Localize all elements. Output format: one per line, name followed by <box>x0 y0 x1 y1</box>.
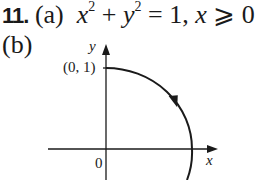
x-axis-label: x <box>206 152 213 169</box>
y-axis-arrow-icon <box>102 44 110 55</box>
origin-label: 0 <box>95 155 103 172</box>
graph <box>0 0 268 180</box>
y-axis-label: y <box>89 38 96 55</box>
direction-arrow-icon <box>167 94 179 107</box>
point-label: (0, 1) <box>63 59 96 76</box>
curve <box>106 68 192 180</box>
